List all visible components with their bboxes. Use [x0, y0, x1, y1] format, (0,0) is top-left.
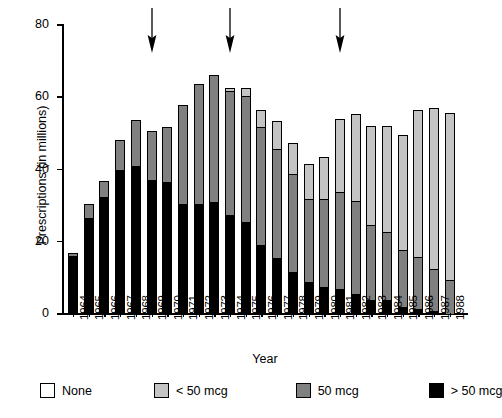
x-tick-1966 — [104, 313, 105, 317]
bar-segment-eq50 — [351, 201, 361, 295]
legend-item-none[interactable]: None — [40, 383, 92, 398]
bar-1981[interactable] — [335, 119, 345, 313]
bar-1972[interactable] — [194, 84, 204, 313]
bar-segment-eq50 — [147, 131, 157, 182]
bar-segment-eq50 — [319, 199, 329, 288]
bar-segment-eq50 — [178, 105, 188, 204]
bar-1969[interactable] — [147, 131, 157, 313]
bar-1971[interactable] — [178, 105, 188, 313]
y-tick-0: 0 — [57, 313, 62, 315]
x-tick-label-1968: 1968 — [140, 295, 152, 320]
x-tick-label-1976: 1976 — [266, 295, 278, 320]
x-tick-1988 — [450, 313, 451, 317]
y-tick-label: 80 — [35, 17, 49, 31]
bar-segment-eq50 — [99, 181, 109, 197]
y-tick-label: 0 — [42, 306, 49, 320]
bar-segment-eq50 — [115, 140, 125, 171]
x-tick-label-1969: 1969 — [156, 295, 168, 320]
bar-segment-gt50 — [115, 170, 125, 315]
legend-item-eq50[interactable]: 50 mcg — [296, 383, 359, 398]
bar-1973[interactable] — [209, 75, 219, 313]
x-tick-1973 — [214, 313, 215, 317]
bar-segment-lt50 — [335, 119, 345, 193]
y-tick-80: 80 — [57, 24, 62, 26]
x-tick-label-1984: 1984 — [392, 295, 404, 320]
bar-1982[interactable] — [351, 114, 361, 313]
down-arrow-icon-1981 — [333, 8, 347, 57]
bar-segment-lt50 — [366, 126, 376, 225]
legend-label-gt50: > 50 mcg — [451, 384, 502, 398]
bar-segment-lt50 — [429, 108, 439, 269]
x-tick-1979 — [309, 313, 310, 317]
bar-1985[interactable] — [398, 135, 408, 313]
x-tick-1981 — [340, 313, 341, 317]
legend-swatch-lt50 — [154, 383, 169, 398]
bar-segment-lt50 — [304, 164, 314, 200]
legend-item-lt50[interactable]: < 50 mcg — [154, 383, 228, 398]
legend-swatch-gt50 — [429, 383, 444, 398]
x-tick-label-1986: 1986 — [423, 295, 435, 320]
bar-segment-lt50 — [256, 110, 266, 128]
bar-1988[interactable] — [445, 113, 455, 313]
bar-1984[interactable] — [382, 126, 392, 313]
bar-segment-eq50 — [241, 96, 251, 222]
x-tick-1984 — [387, 313, 388, 317]
x-tick-1985 — [403, 313, 404, 317]
bar-segment-lt50 — [288, 143, 298, 176]
bar-1968[interactable] — [131, 120, 141, 313]
x-tick-label-1964: 1964 — [78, 295, 90, 320]
legend-item-gt50[interactable]: > 50 mcg — [429, 383, 502, 398]
bar-1967[interactable] — [115, 140, 125, 313]
bar-1975[interactable] — [241, 88, 251, 313]
bar-1964[interactable] — [68, 253, 78, 313]
bar-segment-gt50 — [131, 166, 141, 314]
chart-legend: None< 50 mcg50 mcg> 50 mcg — [40, 383, 460, 398]
x-tick-label-1977: 1977 — [282, 295, 294, 320]
bar-1979[interactable] — [304, 164, 314, 313]
legend-label-none: None — [62, 384, 92, 398]
x-tick-label-1972: 1972 — [203, 295, 215, 320]
x-tick-label-1987: 1987 — [439, 295, 451, 320]
bar-segment-lt50 — [382, 126, 392, 233]
bar-segment-eq50 — [382, 232, 392, 301]
x-tick-1975 — [246, 313, 247, 317]
x-tick-1968 — [136, 313, 137, 317]
bar-1976[interactable] — [256, 110, 266, 313]
bar-segment-gt50 — [147, 180, 157, 314]
x-tick-label-1975: 1975 — [250, 295, 262, 320]
bar-1986[interactable] — [413, 110, 423, 313]
x-tick-1972 — [199, 313, 200, 317]
bar-1980[interactable] — [319, 157, 329, 313]
x-tick-1983 — [371, 313, 372, 317]
x-tick-1970 — [167, 313, 168, 317]
bar-segment-eq50 — [162, 127, 172, 183]
x-tick-1964 — [73, 313, 74, 317]
bar-1966[interactable] — [99, 181, 109, 313]
x-tick-label-1985: 1985 — [407, 295, 419, 320]
x-tick-label-1978: 1978 — [297, 295, 309, 320]
bar-1987[interactable] — [429, 108, 439, 313]
legend-swatch-none — [40, 383, 55, 398]
y-tick-60: 60 — [57, 96, 62, 98]
bar-1983[interactable] — [366, 126, 376, 313]
bar-1978[interactable] — [288, 143, 298, 313]
bar-1970[interactable] — [162, 127, 172, 313]
bar-1974[interactable] — [225, 88, 235, 313]
bar-segment-eq50 — [304, 199, 314, 282]
plot-area: 020406080 196419651966196719681969197019… — [62, 24, 468, 314]
x-tick-label-1979: 1979 — [313, 295, 325, 320]
x-tick-label-1980: 1980 — [329, 295, 341, 320]
bar-segment-eq50 — [194, 84, 204, 205]
x-tick-1976 — [261, 313, 262, 317]
legend-label-lt50: < 50 mcg — [176, 384, 228, 398]
bar-segment-lt50 — [413, 110, 423, 258]
x-tick-1967 — [120, 313, 121, 317]
x-tick-1980 — [324, 313, 325, 317]
x-tick-label-1966: 1966 — [109, 295, 121, 320]
x-tick-label-1967: 1967 — [125, 295, 137, 320]
bar-1977[interactable] — [272, 121, 282, 313]
bar-segment-eq50 — [256, 127, 266, 246]
x-tick-1986 — [418, 313, 419, 317]
x-tick-label-1970: 1970 — [172, 295, 184, 320]
y-tick-label: 60 — [35, 89, 49, 103]
